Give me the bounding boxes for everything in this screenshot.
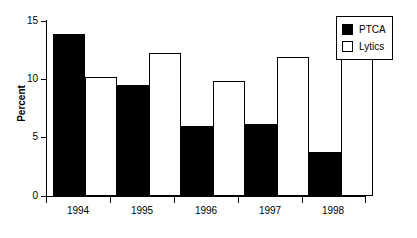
y-tick-label-0: 0 [14,191,38,201]
filled-square-icon [342,24,353,35]
x-tick-label-1994: 1994 [48,205,108,217]
bar-ptca-1997 [245,124,277,196]
bar-lytics-1994 [85,77,117,196]
bar-ptca-1996 [181,126,213,196]
x-tick-mark-3 [238,197,239,203]
hollow-square-icon [342,41,353,52]
legend-item-ptca: PTCA [342,21,386,38]
bar-lytics-1996 [213,81,245,197]
legend-label-lytics: Lytics [359,41,384,52]
bar-ptca-1994 [53,34,85,196]
legend-item-lytics: Lytics [342,38,386,55]
x-tick-label-1996: 1996 [176,205,236,217]
x-tick-mark-5 [365,197,366,203]
bar-lytics-1998 [341,48,373,196]
x-tick-label-1998: 1998 [303,205,363,217]
y-tick-label-10: 10 [14,74,38,84]
legend-label-ptca: PTCA [359,24,386,35]
x-tick-label-1997: 1997 [240,205,300,217]
bar-chart: Percent 15 10 5 0 1994 1995 1996 1997 19… [0,0,417,238]
y-tick-label-5: 5 [14,132,38,142]
bar-ptca-1995 [117,85,149,196]
bar-ptca-1998 [309,152,341,196]
legend: PTCA Lytics [336,16,393,60]
y-tick-label-15: 15 [14,16,38,26]
bar-lytics-1995 [149,53,181,197]
bar-lytics-1997 [277,57,309,196]
x-tick-mark-2 [174,197,175,203]
x-tick-mark-1 [110,197,111,203]
x-axis-line [46,196,366,197]
plot-area [47,21,365,196]
x-tick-label-1995: 1995 [112,205,172,217]
x-tick-mark-0 [46,197,47,203]
x-tick-mark-4 [302,197,303,203]
